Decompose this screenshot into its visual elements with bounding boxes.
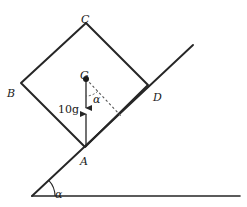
diagram-canvas: A B C D G 10g α α xyxy=(0,0,247,207)
vertex-label-b: B xyxy=(7,88,15,99)
vertex-label-c: C xyxy=(81,14,89,25)
vertex-label-a: A xyxy=(80,156,88,167)
normal-dashed-line xyxy=(86,79,122,117)
mechanics-diagram-svg xyxy=(0,0,247,207)
angle-label-alpha-at-g: α xyxy=(93,94,100,105)
weight-force-label: 10g xyxy=(58,104,79,115)
square-lamina-abcd xyxy=(21,23,148,147)
vertex-label-d: D xyxy=(153,92,162,103)
angle-label-alpha-at-base: α xyxy=(55,189,62,200)
centre-of-mass-label: G xyxy=(80,70,89,81)
